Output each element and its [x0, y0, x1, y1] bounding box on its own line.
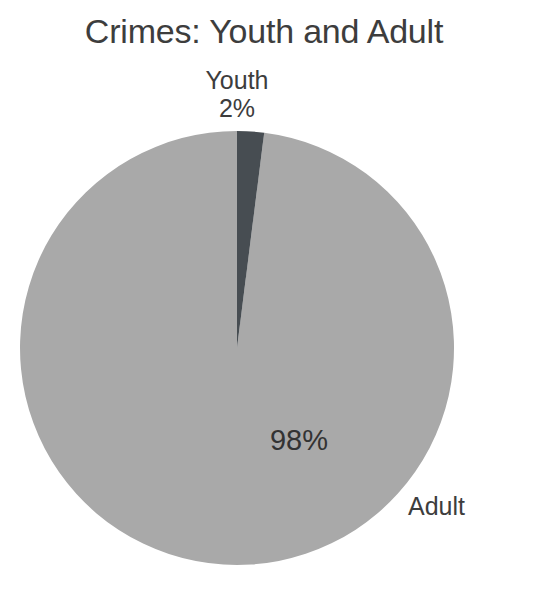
slice-label-adult-name: Adult — [408, 491, 528, 521]
slice-label-adult-percent: 98% — [239, 423, 359, 457]
pie-chart-figure: Crimes: Youth and Adult Youth 2% 98% Adu… — [0, 0, 535, 598]
